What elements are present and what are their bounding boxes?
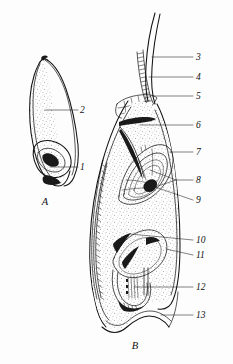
callout-label-1: 1 xyxy=(80,162,85,172)
panel-letter-b: B xyxy=(132,340,139,351)
callout-label-6: 6 xyxy=(196,120,201,130)
callout-label-8: 8 xyxy=(196,175,201,185)
callout-label-10: 10 xyxy=(196,235,206,245)
figure-container: A 2 1 xyxy=(0,0,233,364)
callout-label-13: 13 xyxy=(196,310,206,320)
callout-label-3: 3 xyxy=(195,52,201,62)
callout-label-11: 11 xyxy=(196,250,205,260)
callout-label-4: 4 xyxy=(196,72,201,82)
callout-label-5: 5 xyxy=(196,91,201,101)
callout-label-9: 9 xyxy=(196,195,201,205)
seed-diagram-svg: A 2 1 xyxy=(0,0,233,364)
fibre-nodes xyxy=(126,279,128,294)
callout-label-2: 2 xyxy=(80,105,85,115)
panel-letter-a: A xyxy=(41,196,49,207)
callout-label-12: 12 xyxy=(196,282,206,292)
